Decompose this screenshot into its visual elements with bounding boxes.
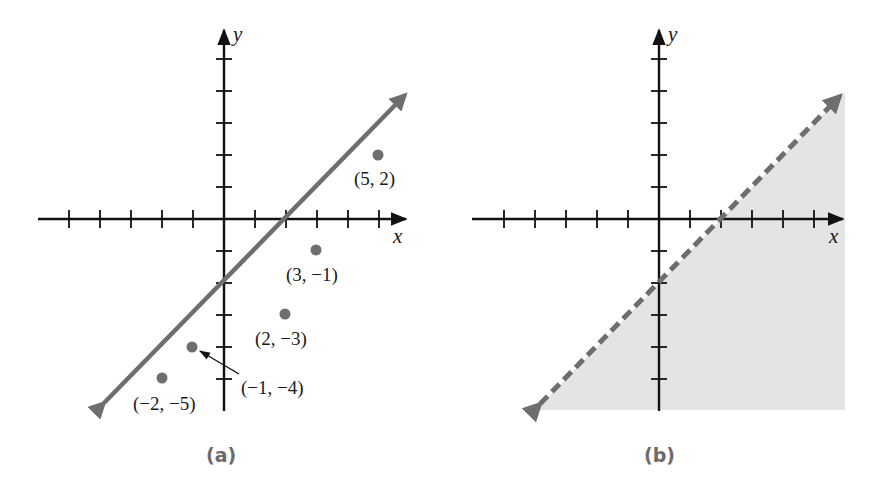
pointer-arrow [200, 351, 239, 374]
point-5-2 [373, 150, 384, 161]
panel-a: y x (5, 2) (3, −1) (2, −3) (−1, −4) (−2,… [38, 22, 406, 466]
caption-a: (a) [206, 444, 236, 466]
y-axis-label: y [666, 22, 678, 46]
figure: y x (5, 2) (3, −1) (2, −3) (−1, −4) (−2,… [0, 0, 876, 486]
point-label: (3, −1) [286, 264, 338, 286]
point-neg2-neg5 [157, 373, 168, 384]
x-axis-label: x [828, 224, 839, 248]
point-label: (5, 2) [354, 168, 395, 190]
point-2-neg3 [280, 309, 291, 320]
point-label: (−1, −4) [241, 377, 304, 399]
x-axis-label: x [392, 224, 403, 248]
caption-b: (b) [644, 444, 675, 466]
y-axis-label: y [231, 22, 243, 46]
panel-b: y x (b) [472, 22, 845, 466]
point-label: (−2, −5) [133, 393, 196, 415]
solid-line [104, 95, 405, 403]
point-label: (2, −3) [255, 328, 307, 350]
point-neg1-neg4 [187, 342, 198, 353]
point-3-neg1 [311, 245, 322, 256]
